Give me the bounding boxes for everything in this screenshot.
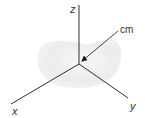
x-axis-label: x [11, 105, 18, 117]
y-axis-label: y [129, 100, 137, 112]
center-of-mass-label: cm [120, 24, 133, 35]
z-axis-label: z [69, 3, 76, 15]
coordinate-diagram: z x y cm [0, 0, 145, 118]
